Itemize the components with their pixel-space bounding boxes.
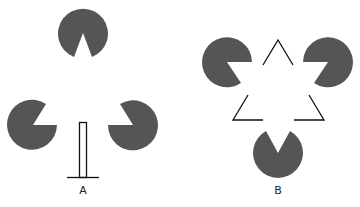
triangle-corner-left xyxy=(233,95,263,120)
pacman-right xyxy=(108,100,158,150)
triangle-corner-right xyxy=(294,95,324,120)
pacman-top xyxy=(58,9,108,57)
panel-label-a: A xyxy=(79,184,87,197)
figure-canvas: A B xyxy=(0,0,360,207)
pacman-bottom xyxy=(253,131,303,178)
pacman-left xyxy=(7,100,57,150)
panel-a: A xyxy=(7,9,158,197)
pacman-top-left xyxy=(202,37,252,87)
triangle-apex xyxy=(263,40,293,65)
panel-label-b: B xyxy=(274,184,282,197)
pacman-top-right xyxy=(303,37,353,87)
panel-b: B xyxy=(202,37,353,197)
vertical-bar xyxy=(80,123,87,178)
